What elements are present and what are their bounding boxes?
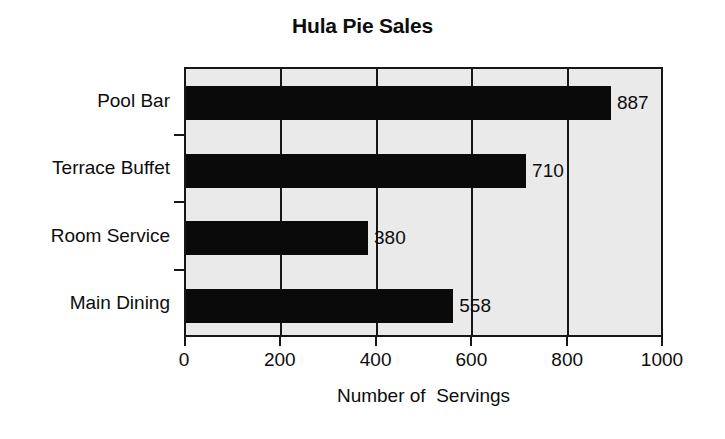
bar-band-pool-bar: 887 xyxy=(186,69,661,137)
bar-terrace-buffet[interactable] xyxy=(186,154,526,188)
x-axis-tick-label-200: 200 xyxy=(264,349,296,371)
bar-value-room-service: 380 xyxy=(368,221,406,255)
bar-value-pool-bar: 887 xyxy=(611,86,649,120)
x-axis-title: Number of Servings xyxy=(184,385,663,407)
bar-chart: Hula Pie Sales Pool Bar Terrace Buffet R… xyxy=(0,0,725,439)
bar-band-main-dining: 558 xyxy=(186,272,661,340)
x-axis-tick-label-400: 400 xyxy=(360,349,392,371)
x-axis-tick-200 xyxy=(279,337,281,346)
plot-area: 887 710 380 558 xyxy=(184,67,663,337)
bar-value-main-dining: 558 xyxy=(453,289,491,323)
bar-value-terrace-buffet: 710 xyxy=(526,154,564,188)
bar-band-terrace-buffet: 710 xyxy=(186,137,661,205)
y-axis-labels: Pool Bar Terrace Buffet Room Service Mai… xyxy=(0,67,176,337)
x-axis-tick-label-0: 0 xyxy=(179,349,190,371)
x-axis-tick-600 xyxy=(470,337,472,346)
x-axis-tick-label-800: 800 xyxy=(551,349,583,371)
x-axis-tick-label-1000: 1000 xyxy=(641,349,683,371)
bar-band-room-service: 380 xyxy=(186,204,661,272)
chart-title: Hula Pie Sales xyxy=(0,14,725,38)
x-axis-tick-0 xyxy=(184,337,186,346)
y-axis-label-main-dining: Main Dining xyxy=(0,292,170,314)
bar-pool-bar[interactable] xyxy=(186,86,611,120)
bar-room-service[interactable] xyxy=(186,221,368,255)
x-axis-tick-1000 xyxy=(661,337,663,346)
x-axis: 0 200 400 600 800 1000 xyxy=(184,337,663,387)
x-axis-tick-label-600: 600 xyxy=(456,349,488,371)
x-axis-tick-800 xyxy=(566,337,568,346)
bar-main-dining[interactable] xyxy=(186,289,453,323)
y-axis-label-room-service: Room Service xyxy=(0,225,170,247)
y-axis-label-terrace-buffet: Terrace Buffet xyxy=(0,157,170,179)
x-axis-tick-400 xyxy=(375,337,377,346)
y-axis-label-pool-bar: Pool Bar xyxy=(0,90,170,112)
